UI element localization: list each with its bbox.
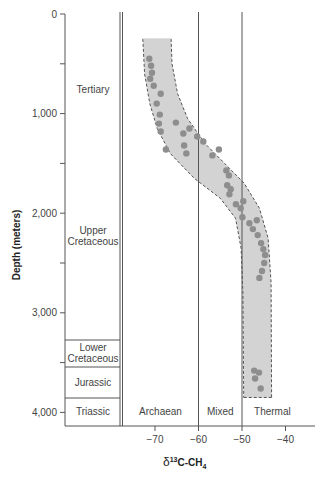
data-point [180, 130, 186, 136]
data-point [259, 268, 265, 274]
y-tick-label: 3,000 [32, 307, 57, 318]
zone-label-archaean: Archaean [139, 406, 182, 417]
x-label-sub: 4 [202, 463, 206, 470]
data-point [147, 76, 153, 82]
data-point [256, 275, 262, 281]
data-point [194, 133, 200, 139]
stratum-label: Jurassic [75, 377, 112, 388]
x-tick-label: −40 [277, 434, 294, 445]
data-point [158, 128, 164, 134]
y-tick-label: 0 [51, 9, 57, 20]
chart: ArchaeanMixedThermal −70−60−50−4001,0002… [0, 0, 321, 477]
stratum-label: UpperCretaceous [67, 225, 118, 247]
x-label-sup: 13 [170, 456, 178, 463]
stratum-label: LowerCretaceous [67, 342, 118, 364]
data-point [209, 152, 215, 158]
x-tick-label: −50 [234, 434, 251, 445]
strata-column: TertiaryUpperCretaceousLowerCretaceousJu… [65, 84, 120, 426]
data-point [260, 246, 266, 252]
data-point [240, 198, 246, 204]
data-point [163, 146, 169, 152]
y-tick-label: 4,000 [32, 407, 57, 418]
data-point [262, 252, 268, 258]
data-point [258, 240, 264, 246]
data-point [200, 138, 206, 144]
data-point [151, 83, 157, 89]
zone-label-thermal: Thermal [254, 406, 291, 417]
stratum-label: Tertiary [77, 84, 110, 95]
data-point [256, 369, 262, 375]
x-tick-label: −60 [190, 434, 207, 445]
data-point [226, 172, 232, 178]
data-point [252, 375, 258, 381]
data-point [250, 226, 256, 232]
data-point [239, 214, 245, 220]
data-point [216, 146, 222, 152]
zone-label-mixed: Mixed [207, 406, 234, 417]
data-point [255, 232, 261, 238]
y-axis-label: Depth (meters) [11, 210, 22, 281]
data-point [238, 205, 244, 211]
y-tick-label: 1,000 [32, 108, 57, 119]
data-point [146, 56, 152, 62]
data-point [254, 217, 260, 223]
data-point [158, 91, 164, 97]
data-point [226, 191, 232, 197]
data-point [261, 260, 267, 266]
data-point [183, 150, 189, 156]
data-point [148, 63, 154, 69]
data-point [156, 120, 162, 126]
data-point [157, 111, 163, 117]
y-tick-label: 2,000 [32, 208, 57, 219]
data-point [149, 70, 155, 76]
data-point [186, 125, 192, 131]
x-axis-label: δ13C-CH4 [163, 455, 206, 470]
x-tick-label: −70 [147, 434, 164, 445]
x-label-main: C-CH [177, 457, 202, 468]
data-point [246, 220, 252, 226]
data-point [173, 119, 179, 125]
data-point [181, 142, 187, 148]
data-point [258, 385, 264, 391]
stratum-label: Triassic [76, 406, 110, 417]
data-point [154, 100, 160, 106]
